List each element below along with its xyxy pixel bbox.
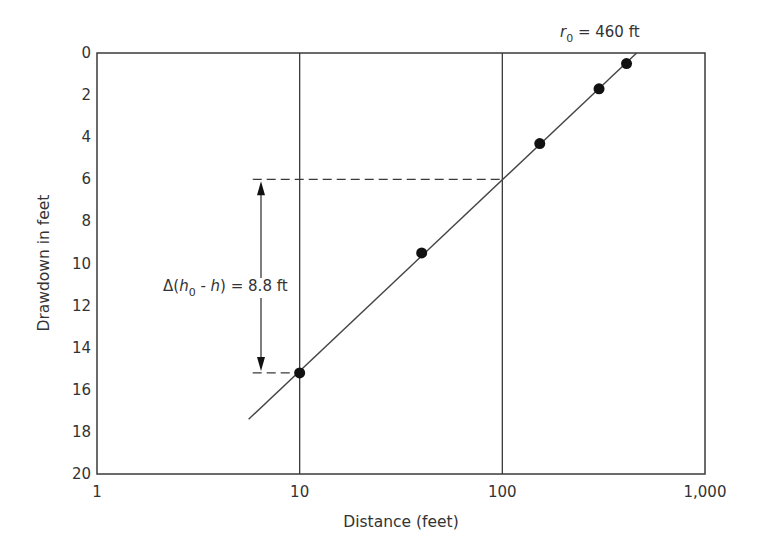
data-point (416, 247, 427, 258)
y-tick-label: 18 (72, 423, 91, 441)
vertical-gridlines (300, 53, 503, 474)
x-tick-label: 1 (92, 483, 102, 501)
r0-annotation: r0 = 460 ft (560, 23, 640, 45)
x-tick-label: 1,000 (684, 483, 727, 501)
y-axis-tick-labels: 02468101214161820 (72, 44, 91, 483)
data-point (594, 83, 605, 94)
data-point (534, 138, 545, 149)
plot-frame (97, 53, 705, 474)
y-tick-label: 6 (81, 170, 91, 188)
dashed-reference-lines (253, 179, 503, 373)
y-tick-label: 16 (72, 381, 91, 399)
y-tick-label: 8 (81, 212, 91, 230)
x-tick-label: 10 (290, 483, 309, 501)
delta-annotation: Δ(h0 - h) = 8.8 ft (163, 277, 288, 299)
x-tick-label: 100 (488, 483, 517, 501)
y-axis-title: Drawdown in feet (35, 195, 53, 332)
y-tick-label: 10 (72, 255, 91, 273)
y-tick-label: 2 (81, 86, 91, 104)
y-tick-label: 12 (72, 297, 91, 315)
fitted-line-path (249, 53, 637, 419)
y-tick-label: 14 (72, 339, 91, 357)
arrowhead-down (257, 357, 265, 371)
x-axis-tick-labels: 1101001,000 (92, 483, 726, 501)
x-axis-title: Distance (feet) (343, 513, 458, 531)
y-tick-label: 0 (81, 44, 91, 62)
arrowhead-up (257, 181, 265, 195)
y-tick-label: 20 (72, 465, 91, 483)
fitted-line (249, 53, 637, 419)
plot-border (97, 53, 705, 474)
data-point (621, 58, 632, 69)
data-point (294, 367, 305, 378)
drawdown-distance-chart: 02468101214161820 1101001,000 Distance (… (0, 0, 764, 548)
y-tick-label: 4 (81, 128, 91, 146)
